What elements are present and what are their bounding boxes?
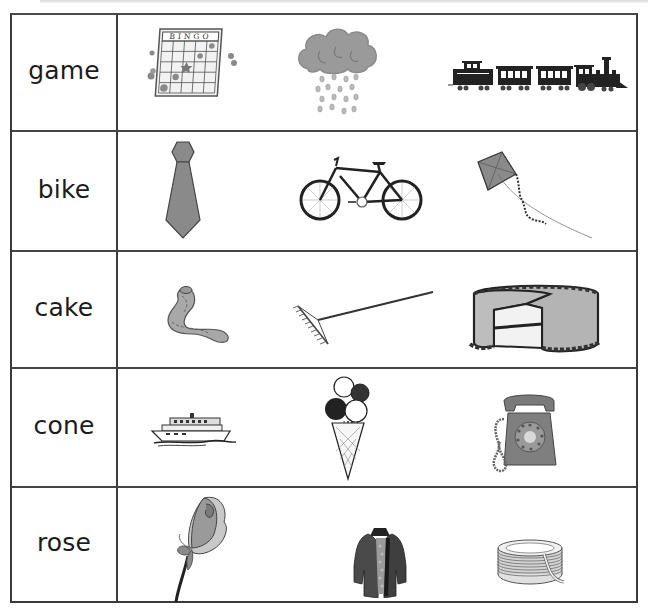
ice-cream-cone-image[interactable] <box>324 375 374 485</box>
picture-cell <box>118 369 636 486</box>
word-label: bike <box>38 175 91 204</box>
coat-image[interactable] <box>352 526 408 598</box>
page-top-shadow <box>40 0 648 3</box>
word-picture-table: game BINGO <box>10 13 638 603</box>
word-label: cake <box>35 293 94 322</box>
word-cell: cake <box>12 252 118 367</box>
table-row-cone: cone <box>12 367 636 486</box>
picture-cell <box>118 132 636 250</box>
word-cell: cone <box>12 369 118 486</box>
word-label: cone <box>33 411 94 440</box>
picture-cell <box>118 252 636 367</box>
boat-image[interactable] <box>150 409 240 449</box>
bicycle-image[interactable] <box>298 156 428 224</box>
rope-image[interactable] <box>494 538 568 590</box>
word-label: rose <box>37 528 91 557</box>
table-row-game: game BINGO <box>12 15 636 130</box>
word-cell: rose <box>12 488 118 601</box>
word-cell: bike <box>12 132 118 250</box>
telephone-image[interactable] <box>490 391 560 477</box>
train-image[interactable] <box>448 55 628 95</box>
kite-image[interactable] <box>474 144 604 244</box>
picture-cell <box>118 488 636 601</box>
table-row-bike: bike <box>12 130 636 250</box>
bingo-card-image[interactable]: BINGO <box>144 27 239 105</box>
picture-cell: BINGO <box>118 15 636 130</box>
rose-image[interactable] <box>166 494 236 602</box>
table-row-rose: rose <box>12 486 636 601</box>
rain-cloud-image[interactable] <box>294 21 384 121</box>
word-label: game <box>28 56 100 85</box>
table-row-cake: cake <box>12 250 636 367</box>
cake-image[interactable] <box>466 276 606 356</box>
snake-image[interactable] <box>158 284 238 354</box>
necktie-image[interactable] <box>164 140 204 240</box>
word-cell: game <box>12 15 118 130</box>
rake-image[interactable] <box>288 288 438 348</box>
svg-text:BINGO: BINGO <box>169 33 212 42</box>
